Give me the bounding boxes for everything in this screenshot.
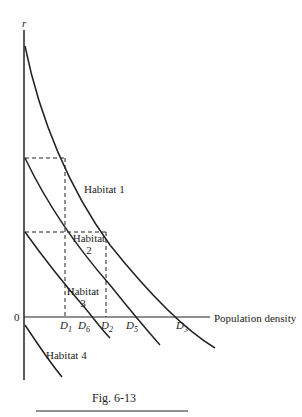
label-habitat-1: Habitat 1 [84, 183, 125, 195]
label-habitat-3-line1: Habitat [66, 285, 100, 297]
x-axis-label: Population density [214, 312, 296, 324]
tick-d6: D6 [78, 319, 90, 336]
label-habitat-3-line2: 3 [66, 297, 100, 309]
label-habitat-2-line1: Habitat [72, 232, 106, 244]
y-axis-label: r [22, 17, 26, 29]
label-habitat-3: Habitat 3 [66, 285, 100, 309]
label-habitat-2-line2: 2 [72, 244, 106, 256]
tick-d2: D2 [101, 319, 113, 336]
label-habitat-4: Habitat 4 [46, 349, 87, 361]
label-habitat-2: Habitat 2 [72, 232, 106, 256]
curve-habitat-1 [25, 46, 215, 348]
tick-d5: D5 [126, 319, 138, 336]
tick-d1: D1 [60, 319, 72, 336]
origin-label: 0 [14, 311, 20, 323]
tick-d3: D3 [176, 319, 188, 336]
figure-caption: Fig. 6-13 [92, 392, 136, 404]
